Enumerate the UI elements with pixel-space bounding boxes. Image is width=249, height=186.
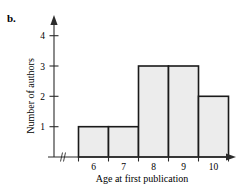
bar-9 (169, 66, 199, 157)
x-tick-label-9: 9 (181, 162, 186, 172)
x-axis-title: Age at first publication (96, 173, 188, 184)
y-tick-label-2: 2 (40, 92, 45, 102)
bars-group (79, 66, 229, 157)
bar-6 (79, 127, 109, 157)
bar-7 (109, 127, 139, 157)
y-axis-title: Number of authors (25, 58, 36, 134)
x-tick-label-6: 6 (91, 162, 96, 172)
bar-10 (199, 96, 229, 157)
bar-8 (139, 66, 169, 157)
y-tick-label-1: 1 (40, 122, 45, 132)
x-axis-arrow-icon (226, 153, 236, 160)
y-axis-arrow-icon (50, 15, 57, 25)
x-tick-label-7: 7 (121, 162, 126, 172)
y-axis (50, 15, 57, 157)
y-tick-label-3: 3 (40, 62, 45, 72)
histogram-figure: b. 1 2 (0, 0, 249, 186)
x-tick-label-10: 10 (209, 162, 219, 172)
x-tick-labels-group: 6 7 8 9 10 (91, 162, 218, 172)
x-tick-label-8: 8 (151, 162, 156, 172)
y-tick-labels-group: 1 2 3 4 (40, 31, 45, 132)
y-tick-label-4: 4 (40, 31, 45, 41)
histogram-plot: 1 2 3 4 6 7 8 9 10 Age at first publicat… (0, 0, 249, 186)
